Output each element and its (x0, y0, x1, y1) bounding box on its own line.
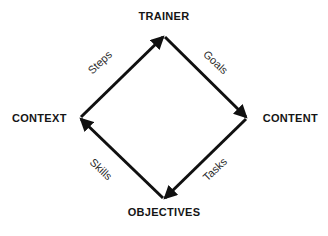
node-label-objectives: OBJECTIVES (0, 207, 328, 218)
edge-context-to-trainer (81, 37, 163, 117)
node-label-content: CONTENT (263, 113, 318, 124)
edge-content-to-objectives (165, 119, 246, 198)
edge-trainer-to-content (165, 37, 246, 117)
node-label-trainer: TRAINER (0, 11, 328, 22)
node-label-context: CONTEXT (12, 113, 67, 124)
diagram-canvas: TRAINER CONTENT OBJECTIVES CONTEXT Steps… (0, 0, 328, 236)
